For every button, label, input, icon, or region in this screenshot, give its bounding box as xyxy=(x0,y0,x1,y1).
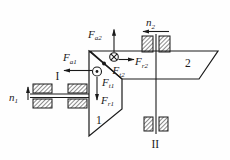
bearing-block-icon xyxy=(159,117,168,131)
bearing-block-icon xyxy=(144,117,153,131)
ft2-into-page-icon xyxy=(110,53,119,62)
shaft-2-label: II xyxy=(152,138,160,150)
gear-2-label: 2 xyxy=(185,57,191,69)
mesh-point-dot xyxy=(102,62,106,66)
bearing-block-icon xyxy=(33,84,52,93)
shaft-1 xyxy=(30,94,89,98)
bearing-block-icon xyxy=(68,99,87,108)
ft1-label: Ft1 xyxy=(101,76,114,91)
shaft-1-bearings xyxy=(33,84,87,108)
fr1-label: Fr1 xyxy=(100,94,114,109)
n2-label: n2 xyxy=(146,16,156,31)
bearing-block-icon xyxy=(68,84,87,93)
fa1-label: Fa1 xyxy=(62,51,77,66)
n1-label: n1 xyxy=(9,91,18,106)
gear-1-label: 1 xyxy=(96,114,102,126)
figure-canvas: n1 I n2 II 1 2 Fa2 Fr2 Fa1 Ft2 Ft1 Fr1 xyxy=(0,0,230,160)
bearing-block-icon xyxy=(159,36,170,52)
shaft-1-label: I xyxy=(56,70,60,82)
bevel-gear-force-diagram: n1 I n2 II 1 2 Fa2 Fr2 Fa1 Ft2 Ft1 Fr1 xyxy=(0,0,230,160)
gear-2-outline xyxy=(90,51,218,79)
ft2-label: Ft2 xyxy=(112,64,126,79)
bearing-block-icon xyxy=(142,36,153,52)
fa2-label: Fa2 xyxy=(87,28,102,43)
fr2-label: Fr2 xyxy=(134,55,148,70)
ft1-out-of-page-icon xyxy=(93,67,102,76)
bearing-block-icon xyxy=(33,99,52,108)
